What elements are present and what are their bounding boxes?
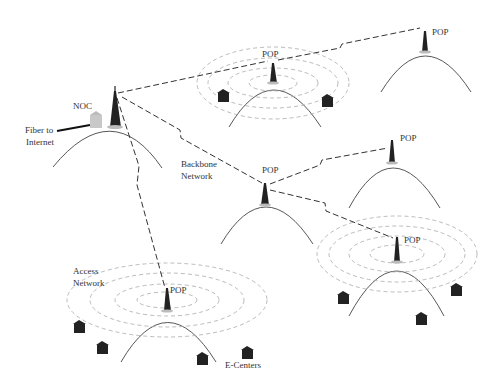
link-noc-pop-bottom-left: [117, 98, 165, 288]
house-icon: [73, 320, 86, 333]
pop-label-mid-right: POP: [400, 133, 417, 144]
fiber-cable: [57, 125, 90, 131]
house-icon: [450, 283, 463, 296]
hill-pop-top-right: [381, 56, 471, 92]
fiber-label-line2: Internet: [26, 137, 54, 148]
access-label-line1: Access: [73, 266, 99, 277]
hill-pop-mid-right: [349, 168, 440, 208]
hill-pop-mid-center: [221, 207, 313, 244]
house-icon: [241, 346, 254, 359]
pop-label-bottom-right: POP: [404, 235, 421, 246]
network-diagram: NOC Fiber to Internet Backbone Network A…: [0, 0, 503, 389]
tower-pop-bottom-right: [391, 237, 403, 264]
hill-pop-bottom-right: [349, 271, 444, 316]
link-noc-pop-top-center: [118, 61, 268, 93]
backbone-label-line1: Backbone: [181, 159, 217, 170]
pop-label-top-right: POP: [432, 27, 449, 38]
house-icon: [196, 352, 209, 365]
pop-label-mid-center: POP: [262, 165, 279, 176]
fiber-label-line1: Fiber to: [25, 125, 53, 136]
pop-label-bottom-left: POP: [170, 285, 187, 296]
tower-pop-mid-right: [386, 140, 398, 165]
pop-label-top-center: POP: [262, 49, 279, 60]
tower-pop-mid-center: [259, 183, 271, 207]
house-icon: [217, 89, 230, 102]
link-pop-mid-center-pop-bottom-right: [270, 190, 393, 238]
hill-pop-top-center: [229, 90, 321, 127]
house-icon: [415, 312, 428, 325]
noc-building: [90, 111, 102, 128]
noc-label: NOC: [73, 101, 92, 112]
house-icon: [321, 94, 334, 107]
hill-noc: [53, 131, 162, 168]
access-label-line2: Network: [73, 278, 105, 289]
house-icon: [337, 291, 350, 304]
tower-pop-top-center: [267, 63, 279, 85]
house-icon: [96, 341, 109, 354]
link-pop-top-center-pop-top-right: [278, 28, 420, 60]
e-centers-label: E-Centers: [225, 360, 261, 371]
tower-pop-top-right: [419, 31, 431, 54]
backbone-label-line2: Network: [181, 171, 213, 182]
diagram-canvas: [0, 0, 503, 389]
